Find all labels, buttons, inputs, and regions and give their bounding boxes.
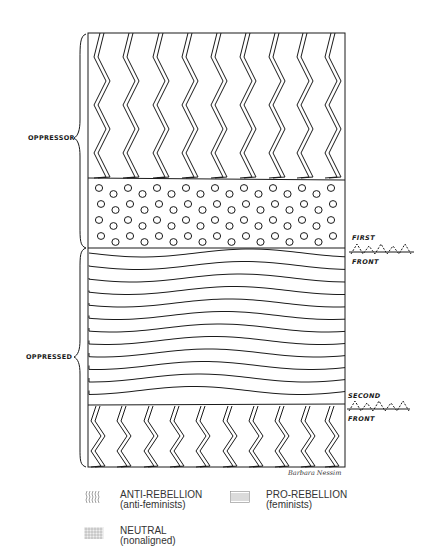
- neutral-swatch-icon: [84, 527, 104, 539]
- anti-rebellion-band-top: [94, 33, 341, 178]
- oppression-diagram: OPPRESSOR OPPRESSED FIRST FRONT SECOND F…: [0, 0, 439, 548]
- neutral-band: [95, 185, 336, 246]
- first-front-label-top: FIRST: [352, 234, 375, 242]
- second-front-label-bottom: FRONT: [348, 415, 375, 423]
- pro-rebellion-swatch-icon: [230, 491, 250, 503]
- first-front-symbol: [349, 244, 414, 254]
- legend-anti-rebellion-sublabel: (anti-feminists): [120, 500, 202, 510]
- oppressed-label: OPPRESSED: [26, 353, 72, 361]
- oppressor-brace: [74, 34, 86, 248]
- pro-rebellion-band: [89, 249, 345, 395]
- oppressor-label: OPPRESSOR: [28, 134, 75, 142]
- legend-pro-rebellion: PRO-REBELLION (feminists): [266, 490, 347, 510]
- legend-anti-rebellion: ANTI-REBELLION (anti-feminists): [120, 490, 202, 510]
- oppressed-brace: [74, 248, 86, 467]
- legend-neutral: NEUTRAL (nonaligned): [120, 526, 176, 546]
- second-front-label-top: SECOND: [348, 392, 381, 400]
- artist-signature: Barbara Nessim: [287, 469, 341, 477]
- second-front-symbol: [347, 401, 410, 411]
- divider-waves-zigzag: [88, 404, 345, 405]
- anti-rebellion-band-bottom: [91, 406, 339, 467]
- first-front-label-bottom: FRONT: [352, 258, 379, 266]
- anti-rebellion-swatch-icon: [85, 491, 102, 503]
- legend-pro-rebellion-sublabel: (feminists): [266, 500, 347, 510]
- legend-neutral-sublabel: (nonaligned): [120, 536, 176, 546]
